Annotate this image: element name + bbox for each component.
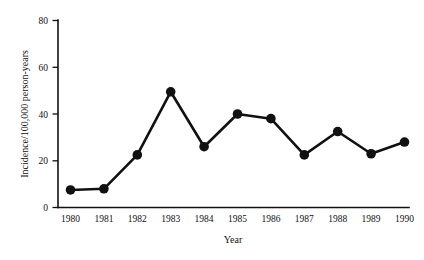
data-point-1988: [333, 127, 343, 137]
x-tick-label: 1988: [328, 214, 347, 224]
y-axis-ticks: [53, 21, 59, 208]
x-tick-label: 1984: [195, 214, 214, 224]
data-point-1987: [300, 150, 310, 160]
x-tick-label: 1989: [362, 214, 381, 224]
data-point-1982: [133, 150, 143, 160]
x-tick-label: 1987: [295, 214, 314, 224]
x-tick-label: 1983: [161, 214, 180, 224]
data-marker-group: [66, 87, 410, 195]
data-point-1985: [233, 109, 243, 119]
y-tick-label: 40: [39, 110, 49, 120]
x-tick-label: 1981: [94, 214, 113, 224]
data-point-1981: [99, 184, 109, 194]
y-tick-label: 0: [43, 203, 48, 213]
y-tick-label: 80: [39, 16, 49, 26]
x-axis-title: Year: [224, 234, 243, 245]
data-point-1980: [66, 185, 76, 195]
y-tick-label: 20: [39, 156, 49, 166]
y-axis-tick-labels: 0 20 40 60 80: [39, 16, 49, 213]
y-axis-title: Incidence/100,000 person-years: [19, 50, 30, 178]
y-tick-label: 60: [39, 63, 49, 73]
data-line-incidence: [71, 92, 405, 190]
x-tick-label: 1980: [61, 214, 80, 224]
data-point-1984: [199, 142, 209, 152]
x-axis-tick-labels: 1980 1981 1982 1983 1984 1985 1986 1987 …: [61, 214, 414, 224]
data-point-1983: [166, 87, 176, 97]
data-point-1990: [400, 137, 410, 147]
x-tick-label: 1990: [395, 214, 414, 224]
data-point-1989: [366, 149, 376, 159]
x-tick-label: 1986: [261, 214, 280, 224]
chart-figure: 0 20 40 60 80 Incidence/100,000 person-y…: [0, 0, 424, 260]
x-tick-label: 1982: [128, 214, 147, 224]
data-point-1986: [266, 114, 276, 124]
x-tick-label: 1985: [228, 214, 247, 224]
line-chart-canvas: 0 20 40 60 80 Incidence/100,000 person-y…: [0, 0, 424, 260]
